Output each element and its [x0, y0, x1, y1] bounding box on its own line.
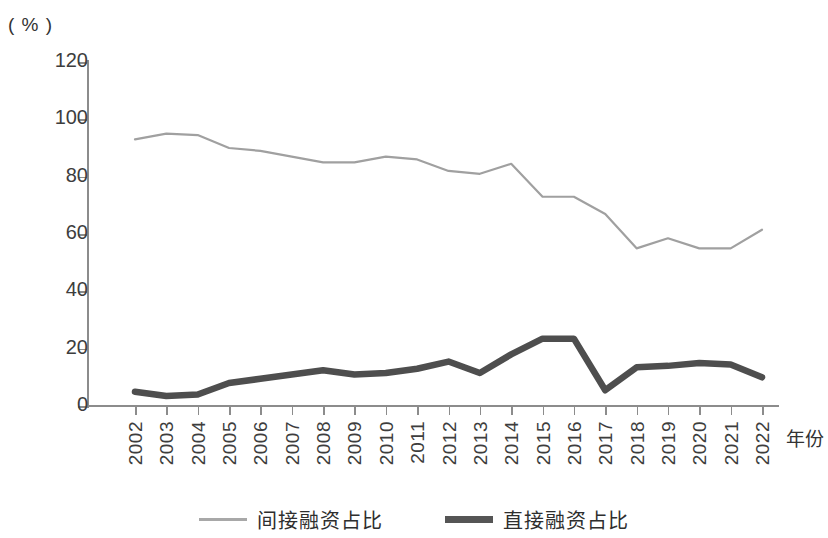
y-axis-unit-label: ( % ) [8, 14, 53, 36]
x-axis-tick-label: 2021 [721, 421, 743, 465]
x-axis-tick-mark [668, 406, 670, 415]
x-axis-tick-mark [386, 406, 388, 415]
x-axis-tick-label: 2009 [344, 421, 366, 465]
x-axis-tick-label: 2008 [313, 421, 335, 465]
x-axis-tick-label: 2018 [627, 421, 649, 465]
x-axis-tick-mark [198, 406, 200, 415]
y-axis-tick-label: 120 [22, 49, 88, 72]
chart-container: ( % ) 020406080100120 200220032004200520… [0, 0, 828, 538]
legend-item-2[interactable]: 直接融资占比 [445, 505, 629, 534]
x-axis-tick-label: 2015 [533, 421, 555, 465]
x-axis-tick-label: 2019 [658, 421, 680, 465]
x-axis-tick-label: 2005 [219, 421, 241, 465]
x-axis-tick-label: 2014 [501, 421, 523, 465]
x-axis-tick-label: 2004 [188, 421, 210, 465]
x-axis-tick-label: 2011 [407, 421, 429, 464]
x-axis-tick-mark [417, 406, 419, 415]
plot-area [87, 62, 777, 406]
x-axis-tick-label: 2013 [470, 421, 492, 465]
x-axis-tick-mark [292, 406, 294, 415]
x-axis-tick-mark [354, 406, 356, 415]
x-axis-tick-label: 2010 [376, 421, 398, 465]
x-axis-tick-mark [543, 406, 545, 415]
x-axis-tick-mark [323, 406, 325, 415]
x-axis-tick-mark [699, 406, 701, 415]
x-axis-tick-label: 2003 [156, 421, 178, 465]
x-axis-tick-mark [511, 406, 513, 415]
x-axis-tick-label: 2022 [752, 421, 774, 465]
x-axis-tick-label: 2012 [439, 421, 461, 465]
series-line-2 [135, 339, 762, 396]
y-axis-tick-label: 60 [22, 221, 88, 244]
legend-swatch-icon [445, 516, 493, 523]
x-axis-tick-mark [229, 406, 231, 415]
x-axis-tick-mark [135, 406, 137, 415]
legend-label: 直接融资占比 [503, 505, 629, 534]
x-axis-title: 年份 [786, 424, 824, 451]
y-axis-tick-label: 40 [22, 278, 88, 301]
x-axis-tick-label: 2006 [250, 421, 272, 465]
y-axis-tick-label: 20 [22, 336, 88, 359]
series-lines [87, 62, 777, 406]
y-axis-tick-label: 0 [22, 393, 88, 416]
x-axis-tick-label: 2016 [564, 421, 586, 465]
x-axis-tick-mark [605, 406, 607, 415]
x-axis-tick-mark [449, 406, 451, 415]
y-axis-tick-label: 100 [22, 106, 88, 129]
x-axis-tick-label: 2007 [282, 421, 304, 465]
x-axis-tick-label: 2017 [595, 421, 617, 465]
x-axis-tick-mark [762, 406, 764, 415]
y-axis-tick-label: 80 [22, 164, 88, 187]
x-axis-tick-mark [731, 406, 733, 415]
x-axis-tick-mark [260, 406, 262, 415]
x-axis-tick-label: 2020 [689, 421, 711, 465]
x-axis-tick-mark [637, 406, 639, 415]
x-axis-tick-label: 2002 [125, 421, 147, 465]
legend-item-1[interactable]: 间接融资占比 [199, 505, 383, 534]
legend-swatch-icon [199, 518, 247, 520]
chart-legend: 间接融资占比直接融资占比 [0, 505, 828, 534]
x-axis-tick-mark [574, 406, 576, 415]
x-axis-tick-mark [480, 406, 482, 415]
series-line-1 [135, 134, 762, 249]
legend-label: 间接融资占比 [257, 505, 383, 534]
x-axis-tick-mark [166, 406, 168, 415]
